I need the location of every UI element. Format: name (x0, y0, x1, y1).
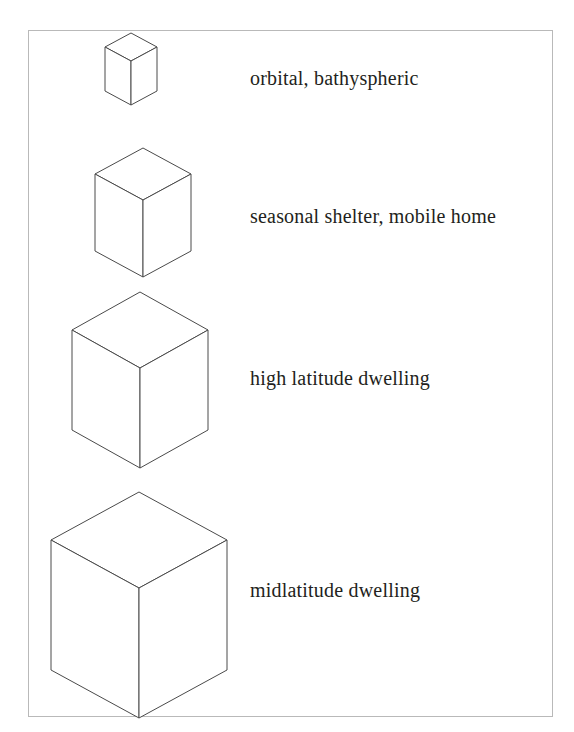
cube-label-seasonal-shelter-mobile-home: seasonal shelter, mobile home (250, 204, 496, 228)
cube-label-midlatitude-dwelling: midlatitude dwelling (250, 578, 420, 602)
figure-page: orbital, bathyspheric seasonal shelter, … (0, 0, 574, 732)
cube-label-orbital-bathyspheric: orbital, bathyspheric (250, 66, 419, 90)
cube-label-high-latitude-dwelling: high latitude dwelling (250, 366, 430, 390)
